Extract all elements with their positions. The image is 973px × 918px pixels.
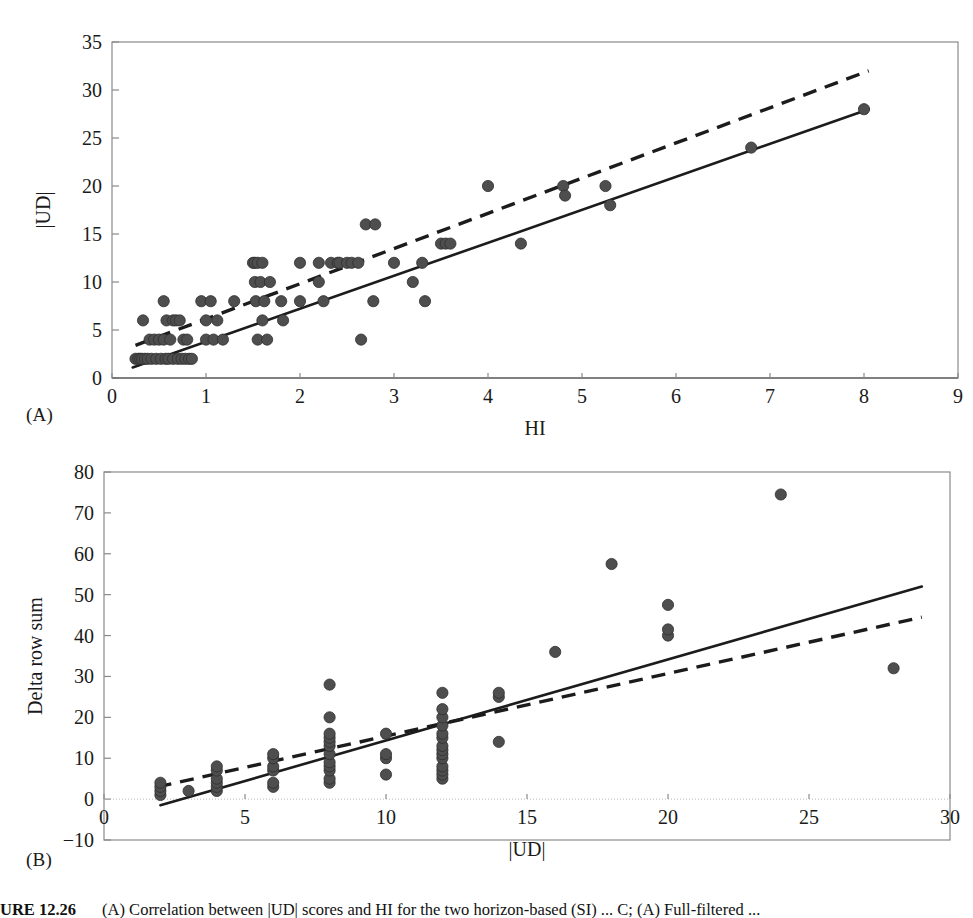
y-tick-label: 25 — [82, 127, 102, 149]
solid-fit-line — [133, 109, 869, 367]
x-axis-title: |UD| — [509, 838, 546, 861]
panel-label-b: (B) — [26, 849, 52, 871]
data-point — [380, 728, 391, 739]
y-tick-label: 35 — [82, 31, 102, 53]
figure-caption: URE 12.26(A) Correlation between |UD| sc… — [0, 900, 973, 918]
x-tick-label: 5 — [240, 806, 250, 828]
data-point — [212, 315, 223, 326]
data-point — [482, 180, 493, 191]
x-tick-label: 0 — [107, 385, 117, 407]
data-point — [600, 180, 611, 191]
y-tick-label: 30 — [74, 665, 94, 687]
y-tick-label: 15 — [82, 223, 102, 245]
data-point — [155, 777, 166, 788]
x-axis-title: HI — [524, 417, 545, 439]
data-point — [662, 624, 673, 635]
x-tick-label: 15 — [517, 806, 537, 828]
data-point — [606, 558, 617, 569]
data-point — [370, 219, 381, 230]
y-tick-label: 60 — [74, 543, 94, 565]
data-point — [858, 104, 869, 115]
data-point — [324, 679, 335, 690]
data-point — [264, 276, 275, 287]
figure-caption-text: (A) Correlation between |UD| scores and … — [102, 900, 760, 918]
data-point — [313, 276, 324, 287]
data-point — [182, 334, 193, 345]
data-point — [417, 257, 428, 268]
data-point — [186, 353, 197, 364]
y-tick-label: 20 — [82, 175, 102, 197]
data-point — [437, 704, 448, 715]
data-point — [313, 257, 324, 268]
data-point — [746, 142, 757, 153]
data-point — [605, 200, 616, 211]
y-tick-label: 0 — [92, 367, 102, 389]
data-point — [437, 687, 448, 698]
y-tick-label: 0 — [84, 788, 94, 810]
data-point — [276, 296, 287, 307]
panel-a-chart: 051015202530350123456789HI|UD| — [0, 0, 973, 450]
data-point — [368, 296, 379, 307]
x-tick-label: 25 — [799, 806, 819, 828]
data-point — [137, 315, 148, 326]
data-point — [356, 334, 367, 345]
data-point — [445, 238, 456, 249]
data-point — [165, 334, 176, 345]
y-tick-label: 5 — [92, 319, 102, 341]
data-point — [775, 489, 786, 500]
data-point — [268, 777, 279, 788]
figure-caption-number: URE 12.26 — [0, 900, 76, 918]
x-tick-label: 5 — [577, 385, 587, 407]
data-point — [515, 238, 526, 249]
data-point — [353, 257, 364, 268]
data-point — [493, 687, 504, 698]
x-tick-label: 0 — [99, 806, 109, 828]
data-point — [262, 334, 273, 345]
data-point — [493, 736, 504, 747]
y-tick-label: 40 — [74, 625, 94, 647]
data-point — [259, 296, 270, 307]
data-point — [257, 257, 268, 268]
y-axis-title: |UD| — [32, 192, 55, 229]
y-tick-label: 30 — [82, 79, 102, 101]
y-tick-label: −10 — [63, 829, 94, 851]
y-tick-label: 10 — [82, 271, 102, 293]
data-point — [662, 599, 673, 610]
data-point — [380, 749, 391, 760]
y-axis-title: Delta row sum — [24, 597, 46, 715]
data-point — [277, 315, 288, 326]
x-tick-label: 6 — [671, 385, 681, 407]
panel-b-chart: −1001020304050607080051015202530|UD|Delt… — [0, 450, 973, 890]
data-point — [550, 646, 561, 657]
data-point — [294, 257, 305, 268]
data-point — [318, 296, 329, 307]
x-tick-label: 2 — [295, 385, 305, 407]
data-point — [183, 785, 194, 796]
x-tick-label: 3 — [389, 385, 399, 407]
data-point — [419, 296, 430, 307]
x-tick-label: 7 — [765, 385, 775, 407]
data-point — [268, 749, 279, 760]
data-point — [324, 712, 335, 723]
x-tick-label: 8 — [859, 385, 869, 407]
data-point — [888, 663, 899, 674]
data-point — [205, 296, 216, 307]
figure-container: 051015202530350123456789HI|UD| −10010203… — [0, 0, 973, 918]
data-point — [294, 296, 305, 307]
data-point — [559, 190, 570, 201]
x-tick-label: 4 — [483, 385, 493, 407]
data-point — [174, 315, 185, 326]
plot-frame — [112, 42, 958, 378]
x-tick-label: 10 — [376, 806, 396, 828]
x-tick-label: 1 — [201, 385, 211, 407]
data-point — [257, 315, 268, 326]
data-point — [380, 769, 391, 780]
y-tick-label: 10 — [74, 747, 94, 769]
y-tick-label: 20 — [74, 706, 94, 728]
panel-b-svg: −1001020304050607080051015202530|UD|Delt… — [0, 450, 973, 890]
x-tick-label: 9 — [953, 385, 963, 407]
data-point — [158, 296, 169, 307]
dashed-fit-line — [136, 71, 869, 346]
data-point — [200, 315, 211, 326]
y-tick-label: 80 — [74, 461, 94, 483]
